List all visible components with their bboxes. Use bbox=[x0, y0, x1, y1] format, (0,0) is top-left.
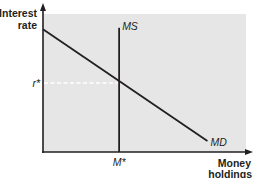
y-axis-arrow-icon bbox=[40, 3, 46, 11]
x-axis-arrow-icon bbox=[245, 149, 253, 155]
equilibrium-quantity-label: M* bbox=[113, 156, 127, 168]
money-demand-label: MD bbox=[210, 136, 227, 148]
y-axis-label-line-2: rate bbox=[18, 19, 37, 31]
y-axis-label-line-1: Interest bbox=[0, 7, 37, 19]
x-axis-label-line-2: holdings bbox=[208, 168, 252, 178]
equilibrium-rate-label: r* bbox=[32, 77, 40, 89]
money-market-chart: Interest rate Money holdings r* M* MS MD bbox=[0, 0, 261, 178]
money-supply-label: MS bbox=[122, 20, 138, 32]
